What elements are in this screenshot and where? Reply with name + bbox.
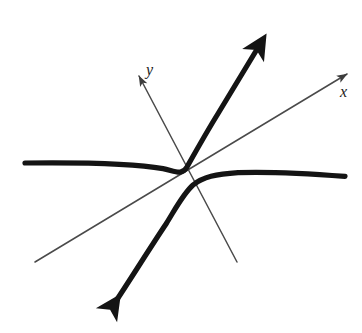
hyperbola-lower-branch xyxy=(116,172,345,301)
y-axis-label: y xyxy=(146,62,153,78)
x-axis-label: x xyxy=(340,84,347,100)
hyperbola-figure: y x xyxy=(0,0,362,333)
hyperbola-upper-branch xyxy=(25,41,262,172)
x-axis-line xyxy=(35,74,347,262)
figure-canvas xyxy=(0,0,362,333)
